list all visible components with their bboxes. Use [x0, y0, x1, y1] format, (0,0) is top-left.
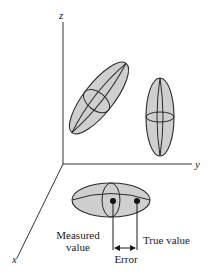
measured-value-label-line2: value: [66, 241, 90, 253]
error-label: Error: [114, 253, 138, 265]
x-axis-label: x: [11, 253, 17, 265]
x-axis: [17, 164, 63, 258]
true-value-label: True value: [143, 234, 190, 246]
y-axis-label: y: [194, 158, 200, 170]
measured-value-label-line1: Measured: [56, 229, 100, 241]
z-axis-label: z: [58, 9, 64, 21]
ellipsoid-diagram: z y x Measured value True value Error: [0, 0, 212, 277]
tilted-ellipsoid: [60, 54, 138, 142]
vertical-ellipsoid: [146, 78, 174, 156]
